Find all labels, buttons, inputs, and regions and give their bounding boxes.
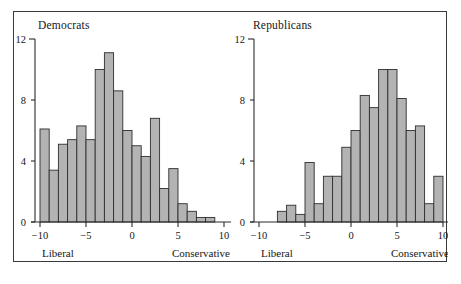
histogram-bar bbox=[342, 147, 351, 222]
y-tick-label: 8 bbox=[21, 95, 26, 106]
histogram-bar bbox=[123, 131, 132, 223]
x-tick-label: 10 bbox=[219, 230, 230, 241]
histogram-bar bbox=[132, 146, 141, 222]
y-tick-label: 0 bbox=[240, 217, 245, 228]
histogram-bar bbox=[169, 169, 178, 222]
x-tick-label: 5 bbox=[394, 230, 399, 241]
histogram-bar bbox=[86, 140, 95, 222]
histogram-bar bbox=[187, 211, 196, 222]
histogram-bar bbox=[77, 126, 86, 222]
x-tick-label: 10 bbox=[438, 230, 448, 241]
histogram-bar bbox=[40, 129, 49, 222]
histogram-bar bbox=[406, 131, 415, 223]
x-tick-label: −10 bbox=[251, 230, 267, 241]
x-tick-label: 0 bbox=[348, 230, 353, 241]
x-tick-label: 5 bbox=[175, 230, 180, 241]
y-tick-label: 4 bbox=[240, 156, 246, 167]
histogram-bar bbox=[305, 163, 314, 222]
y-tick-label: 8 bbox=[240, 95, 245, 106]
histogram-bar bbox=[397, 98, 406, 222]
histogram-bar bbox=[351, 131, 360, 223]
histogram-bar bbox=[388, 70, 397, 223]
histogram-bar bbox=[58, 144, 67, 222]
axis-end-label-liberal: Liberal bbox=[42, 247, 74, 259]
histogram-bar bbox=[49, 170, 58, 222]
histogram-bar bbox=[434, 176, 443, 222]
histogram-democrats: 04812−10−50510LiberalConservative bbox=[14, 12, 231, 263]
y-tick-label: 4 bbox=[21, 156, 27, 167]
histogram-bar bbox=[323, 176, 332, 222]
histogram-bar bbox=[150, 118, 159, 222]
histogram-bar bbox=[104, 53, 113, 222]
histogram-bar bbox=[296, 214, 305, 222]
histogram-bar bbox=[114, 91, 123, 222]
y-tick-label: 12 bbox=[235, 34, 246, 45]
panel-republicans: Republicans 04812−10−50510LiberalConserv… bbox=[231, 12, 448, 263]
histogram-bar bbox=[415, 126, 424, 222]
histogram-bar bbox=[369, 108, 378, 222]
histogram-republicans: 04812−10−50510LiberalConservative bbox=[231, 12, 448, 263]
histogram-bar bbox=[206, 217, 215, 222]
histogram-bar bbox=[425, 204, 434, 222]
figure-histogram-pair: Democrats 04812−10−50510LiberalConservat… bbox=[0, 0, 461, 284]
figure-frame: Democrats 04812−10−50510LiberalConservat… bbox=[13, 11, 447, 262]
histogram-bar bbox=[314, 204, 323, 222]
histogram-bar bbox=[160, 188, 169, 222]
histogram-bar bbox=[287, 205, 296, 222]
axis-end-label-conservative: Conservative bbox=[391, 247, 448, 259]
y-tick-label: 12 bbox=[16, 34, 27, 45]
axis-end-label-liberal: Liberal bbox=[261, 247, 293, 259]
axis-end-label-conservative: Conservative bbox=[172, 247, 230, 259]
histogram-bar bbox=[141, 156, 150, 222]
x-tick-label: −5 bbox=[299, 230, 310, 241]
y-tick-label: 0 bbox=[21, 217, 26, 228]
histogram-bar bbox=[196, 217, 205, 222]
histogram-bar bbox=[68, 140, 77, 222]
panel-democrats: Democrats 04812−10−50510LiberalConservat… bbox=[14, 12, 231, 263]
x-tick-label: −5 bbox=[80, 230, 91, 241]
histogram-bar bbox=[333, 176, 342, 222]
x-tick-label: −10 bbox=[32, 230, 48, 241]
histogram-bar bbox=[95, 70, 104, 223]
x-tick-label: 0 bbox=[129, 230, 134, 241]
histogram-bar bbox=[178, 204, 187, 222]
histogram-bar bbox=[379, 70, 388, 223]
histogram-bar bbox=[277, 211, 286, 222]
histogram-bar bbox=[360, 95, 369, 222]
